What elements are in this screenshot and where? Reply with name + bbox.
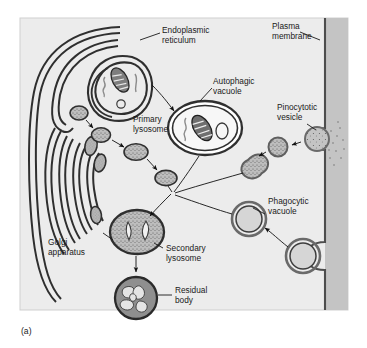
primary-lysosome-vesicle-2 xyxy=(92,128,111,142)
secondary-lysosome-structure xyxy=(110,210,164,254)
plasma-membrane-band xyxy=(325,18,348,310)
primary-lysosome-vesicle-3 xyxy=(124,144,148,160)
primary-lysosome-vesicle-4 xyxy=(155,170,177,185)
cell-diagram: Endoplasmic reticulum Plasma membrane Au… xyxy=(0,0,367,348)
phagocytic-vacuole-forming-inner xyxy=(290,243,316,269)
pinocytotic-vesicle-free xyxy=(269,138,288,157)
label-primary-lysosome: Primary lysosome xyxy=(133,114,168,134)
phagocytic-vacuole-free-inner xyxy=(236,206,262,232)
primary-lysosome-vesicle-1 xyxy=(70,106,88,120)
panel-caption: (a) xyxy=(21,326,32,336)
figure-panel: Endoplasmic reticulum Plasma membrane Au… xyxy=(0,0,367,348)
pinocytotic-vesicle-budding xyxy=(305,127,329,151)
